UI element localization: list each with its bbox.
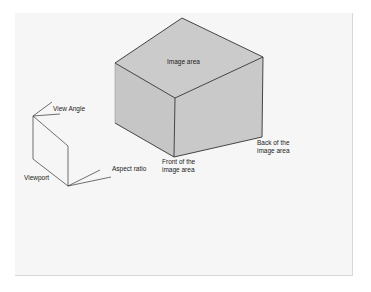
image-area-label: Image area [167,58,200,66]
aspect-ratio-label: Aspect ratio [112,165,146,173]
viewing-volume-diagram [0,0,371,292]
viewport-label: Viewport [24,174,49,182]
front-of-image-area-label: Front of the image area [162,158,195,173]
view-angle-label: View Angle [53,105,85,113]
image-area-cube [115,18,263,157]
back-of-image-area-label: Back of the image area [257,139,290,154]
